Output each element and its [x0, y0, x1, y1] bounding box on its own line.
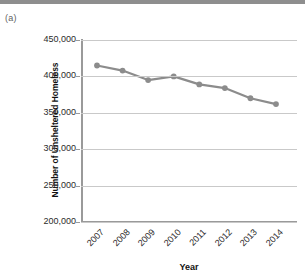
data-point-marker [120, 68, 126, 74]
gridline [81, 186, 297, 187]
y-tick-mark [76, 222, 80, 223]
gridline [81, 40, 297, 41]
line-series [81, 40, 297, 222]
data-point-marker [248, 95, 254, 101]
data-point-marker [196, 82, 202, 88]
gridline [81, 76, 297, 77]
y-tick-mark [76, 149, 80, 150]
x-axis-tick-labels: 20072008200920102011201220132014 [81, 223, 297, 257]
y-tick-label: 450,000 [28, 35, 76, 44]
y-tick-mark [76, 186, 80, 187]
data-point-marker [273, 101, 279, 107]
y-tick-mark [76, 40, 80, 41]
y-tick-label: 300,000 [28, 144, 76, 153]
y-tick-label: 400,000 [28, 71, 76, 80]
y-tick-mark [76, 76, 80, 77]
y-tick-mark [76, 113, 80, 114]
plot-area [81, 40, 297, 222]
gridline [81, 149, 297, 150]
data-point-marker [145, 77, 151, 83]
y-tick-label: 250,000 [28, 181, 76, 190]
panel-label: (a) [5, 13, 17, 23]
y-tick-label: 350,000 [28, 108, 76, 117]
y-tick-label: 200,000 [28, 217, 76, 226]
data-point-marker [94, 63, 100, 69]
x-axis-title: Year [81, 262, 297, 272]
data-point-marker [222, 85, 228, 91]
y-axis-tick-labels: 450,000400,000350,000300,000250,000200,0… [28, 0, 76, 280]
figure-panel: (a) Number of Unsheltered Homeless 450,0… [0, 0, 305, 280]
gridline [81, 113, 297, 114]
